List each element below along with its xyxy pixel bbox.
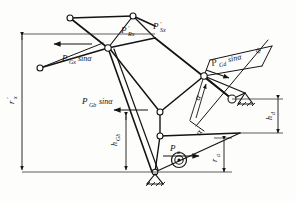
joint-mid xyxy=(157,109,163,115)
linkage-members xyxy=(40,16,272,172)
label-dim-hd: h d xyxy=(265,111,276,120)
joint-left-ground xyxy=(37,65,43,71)
label-dim-rx: r ′ x xyxy=(6,96,18,104)
label-dim-hgb-sub: Gb xyxy=(115,134,121,141)
joint-slider-upper xyxy=(157,133,163,139)
member-crown-to-support xyxy=(204,76,245,93)
member-mid-to-crown xyxy=(160,76,204,112)
label-force-sx: P ′ Sx xyxy=(152,21,166,33)
member-triangle-right xyxy=(133,16,155,38)
label-force-gx-tail: sinα xyxy=(78,54,92,63)
label-force-gb-sub: Gb xyxy=(89,102,96,108)
label-dim-rx-main: r xyxy=(6,100,16,104)
label-force-a: P a xyxy=(169,143,180,155)
label-force-gx: P Gx sinα xyxy=(61,53,92,65)
label-force-a-sub: a xyxy=(177,149,180,155)
label-dim-hd-main: h xyxy=(265,116,274,120)
label-force-gb-tail: sinα xyxy=(99,97,113,106)
label-force-sx-main: P xyxy=(152,21,159,31)
label-force-gx-main: P xyxy=(61,53,68,63)
label-angle-alpha-lower: α xyxy=(193,128,204,138)
label-dim-rx-sub: x xyxy=(12,96,18,100)
linkage-force-diagram: P ′ Rx P ′ Sx P Gx sinα P Gb sinα P Gd s… xyxy=(0,0,296,201)
label-force-gb: P Gb sinα xyxy=(81,96,113,108)
member-base-to-right xyxy=(155,133,240,172)
label-alpha-lower: α xyxy=(193,128,204,138)
label-force-rx: P ′ Rx xyxy=(120,25,135,37)
diagram-canvas: P ′ Rx P ′ Sx P Gx sinα P Gb sinα P Gd s… xyxy=(0,0,296,201)
label-force-gd-sub: Gd xyxy=(218,61,227,69)
member-rocker-upper xyxy=(40,48,108,68)
label-dim-ra: r a xyxy=(210,154,221,162)
label-dim-hgb-main: h xyxy=(110,142,119,146)
label-dim-hd-sub: d xyxy=(270,111,276,115)
joint-upper-pivot xyxy=(105,45,111,51)
label-dim-ra-sub: a xyxy=(215,154,221,157)
label-force-gd-tail: sinα xyxy=(227,52,243,64)
member-mid-link xyxy=(110,49,160,112)
member-top-left xyxy=(70,16,133,18)
joints xyxy=(37,13,236,139)
label-force-rx-main: P xyxy=(120,25,127,35)
joint-top-left xyxy=(67,15,73,21)
joint-crown xyxy=(201,73,207,79)
member-cyl-right-cap xyxy=(262,46,272,66)
joint-top-right xyxy=(130,13,136,19)
label-angle-alpha-center: α xyxy=(192,93,203,102)
label-force-a-main: P xyxy=(169,143,176,153)
member-top-right xyxy=(133,16,155,26)
dimension-ra xyxy=(196,138,232,172)
label-force-gb-main: P xyxy=(81,96,88,106)
label-force-gx-sub: Gx xyxy=(69,59,76,65)
label-alpha-center: α xyxy=(192,93,203,102)
member-to-base-pin xyxy=(155,136,160,172)
label-force-rx-sub: Rx xyxy=(127,31,135,37)
label-force-gd: P Gd sinα xyxy=(209,51,243,70)
label-dim-ra-main: r xyxy=(210,158,219,162)
arrow-force-gd xyxy=(206,70,229,78)
label-dim-hgb: h Gb xyxy=(110,134,121,146)
label-force-sx-sub: Sx xyxy=(160,27,166,33)
